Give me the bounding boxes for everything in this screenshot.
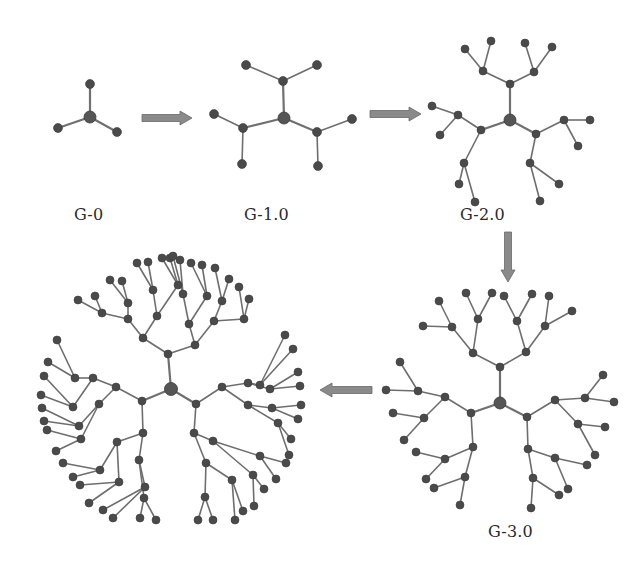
branch-node <box>555 491 563 499</box>
bond-edge <box>434 477 465 488</box>
branch-node <box>158 254 166 262</box>
bond-edge <box>473 319 478 353</box>
branch-node <box>210 110 219 119</box>
dendrimer-g4 <box>37 252 305 524</box>
bond-edge <box>424 397 445 418</box>
branch-node <box>239 507 247 515</box>
branch-node <box>400 436 408 444</box>
bond-edge <box>564 120 578 146</box>
bond-edge <box>196 387 222 404</box>
branch-node <box>420 414 428 422</box>
branch-node <box>610 398 618 406</box>
branch-node <box>250 502 258 510</box>
branch-node <box>555 180 563 188</box>
bond-edge <box>545 296 549 326</box>
branch-node <box>461 45 469 53</box>
core-node <box>278 112 290 124</box>
branch-node <box>529 474 537 482</box>
branch-node <box>74 296 82 304</box>
branch-node <box>225 275 233 283</box>
branch-node <box>348 115 357 124</box>
branch-node <box>256 381 264 389</box>
label-g1: G-1.0 <box>244 205 289 224</box>
branch-node <box>218 297 226 305</box>
branch-node <box>106 276 114 284</box>
branch-node <box>313 61 322 70</box>
branch-node <box>454 111 462 119</box>
branch-node <box>279 77 288 86</box>
bond-edge <box>283 65 317 81</box>
branch-node <box>201 493 209 501</box>
branch-node <box>581 394 589 402</box>
bond-edge <box>471 413 473 447</box>
branch-node <box>496 363 504 371</box>
branch-node <box>118 277 126 285</box>
branch-node <box>551 454 559 462</box>
branch-node <box>297 401 305 409</box>
branch-node <box>526 159 534 167</box>
core-node <box>494 397 506 409</box>
branch-node <box>469 443 477 451</box>
dendrimer-g2 <box>428 37 594 206</box>
branch-node <box>54 124 63 133</box>
bond-edge <box>143 338 168 354</box>
branch-node <box>139 334 147 342</box>
branch-node <box>428 102 436 110</box>
bond-edge <box>526 326 545 352</box>
branch-node <box>202 459 210 467</box>
bond-edge <box>555 458 568 489</box>
bond-edge <box>73 378 93 407</box>
branch-node <box>187 259 195 267</box>
bond-edge <box>142 401 143 433</box>
bond-edge <box>89 482 119 503</box>
branch-node <box>456 501 464 509</box>
branch-node <box>268 404 276 412</box>
bond-edge <box>213 441 253 475</box>
bond-edge <box>239 287 244 319</box>
branch-node <box>419 322 427 330</box>
branch-node <box>144 258 152 266</box>
bond-edge <box>253 475 254 506</box>
branch-node <box>272 475 280 483</box>
core-node <box>165 383 178 396</box>
branch-node <box>477 126 485 134</box>
branch-node <box>461 473 469 481</box>
bond-edge <box>465 447 473 477</box>
bond-edge <box>531 478 533 508</box>
branch-node <box>209 516 217 524</box>
bond-edge <box>500 352 526 367</box>
branch-node <box>53 336 61 344</box>
bond-edge <box>416 452 445 459</box>
branch-node <box>149 286 157 294</box>
branch-node <box>281 331 289 339</box>
bond-edge <box>189 296 207 324</box>
branch-node <box>96 466 104 474</box>
branch-node <box>249 471 257 479</box>
bond-edge <box>464 163 475 202</box>
branch-node <box>460 159 468 167</box>
bond-edge <box>525 43 534 72</box>
branch-node <box>474 315 482 323</box>
branch-node <box>500 292 508 300</box>
branch-node <box>124 299 132 307</box>
bond-edge <box>386 390 418 391</box>
bond-edge <box>183 294 189 324</box>
branch-node <box>441 393 449 401</box>
branch-node <box>179 290 187 298</box>
branch-node <box>211 264 219 272</box>
bond-edge <box>517 321 526 352</box>
branch-node <box>91 292 99 300</box>
bond-edge <box>100 442 117 470</box>
branch-node <box>521 39 529 47</box>
branch-node <box>479 67 487 75</box>
bond-edge <box>445 447 473 459</box>
branch-node <box>245 295 253 303</box>
bond-edge <box>483 41 491 71</box>
branch-node <box>488 289 496 297</box>
branch-node <box>551 396 559 404</box>
branch-node <box>548 43 556 51</box>
dendrimer-g0 <box>54 80 122 137</box>
branch-node <box>141 483 149 491</box>
branch-node <box>285 451 293 459</box>
branch-node <box>124 315 132 323</box>
